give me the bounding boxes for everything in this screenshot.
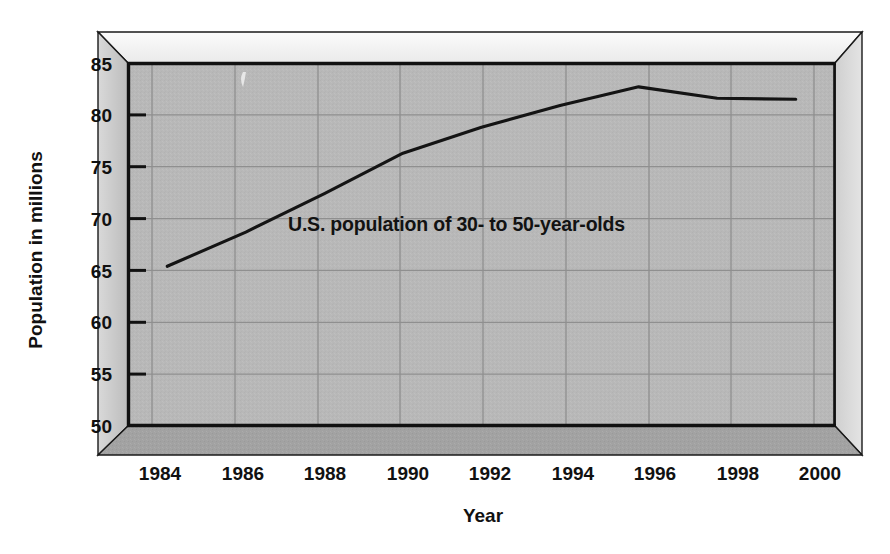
x-tick-label: 1996 — [634, 463, 676, 484]
y-tick-label: 65 — [91, 261, 113, 282]
y-tick-label: 75 — [91, 157, 113, 178]
x-tick-label: 1992 — [469, 463, 511, 484]
plot-area: U.S. population of 30- to 50-year-olds — [127, 62, 836, 427]
y-tick-label: 70 — [91, 209, 112, 230]
x-tick-label: 1990 — [387, 463, 429, 484]
y-tick-label: 55 — [91, 364, 113, 385]
y-tick-label: 60 — [91, 312, 112, 333]
x-tick-label: 1984 — [139, 463, 182, 484]
y-tick-label: 80 — [91, 105, 112, 126]
frame-left-face — [98, 32, 128, 455]
frame-top-face — [98, 32, 862, 63]
x-tick-label: 1988 — [304, 463, 346, 484]
line-chart: U.S. population of 30- to 50-year-olds 8… — [0, 0, 890, 554]
series-annotation-label: U.S. population of 30- to 50-year-olds — [288, 213, 625, 235]
x-tick-label: 1998 — [717, 463, 759, 484]
frame-bottom-face — [98, 426, 862, 455]
y-tick-label: 85 — [91, 54, 113, 75]
frame-right-face — [835, 32, 862, 455]
x-tick-label: 2000 — [799, 463, 841, 484]
y-tick-label: 50 — [91, 416, 112, 437]
y-axis-title: Population in millions — [25, 151, 46, 348]
chart-figure: U.S. population of 30- to 50-year-olds 8… — [0, 0, 890, 554]
x-axis-title: Year — [463, 505, 504, 526]
x-tick-label: 1986 — [222, 463, 264, 484]
x-axis-tick-labels: 1984 1986 1988 1990 1992 1994 1996 1998 … — [139, 463, 841, 484]
plot-background — [128, 63, 835, 426]
x-tick-label: 1994 — [552, 463, 595, 484]
